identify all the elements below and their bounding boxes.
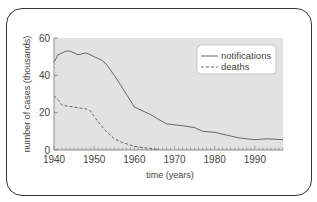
- y-tick-label: 20: [39, 107, 51, 118]
- y-axis-title: number of cases (thousands): [22, 36, 32, 153]
- line-chart: 0204060 194019501960197019801990 time (y…: [0, 0, 317, 202]
- x-ticks: 194019501960197019801990: [43, 154, 267, 165]
- x-tick-label: 1970: [163, 154, 186, 165]
- x-tick-label: 1990: [244, 154, 267, 165]
- x-tick-label: 1950: [83, 154, 106, 165]
- x-axis-title: time (years): [146, 170, 194, 180]
- legend-notifications: notifications: [221, 50, 271, 61]
- x-tick-label: 1940: [43, 154, 66, 165]
- x-tick-label: 1960: [123, 154, 146, 165]
- y-tick-label: 40: [39, 70, 51, 81]
- y-tick-label: 60: [39, 33, 51, 44]
- legend-deaths: deaths: [221, 61, 250, 72]
- x-tick-label: 1980: [204, 154, 227, 165]
- legend: notifications deaths: [197, 45, 276, 74]
